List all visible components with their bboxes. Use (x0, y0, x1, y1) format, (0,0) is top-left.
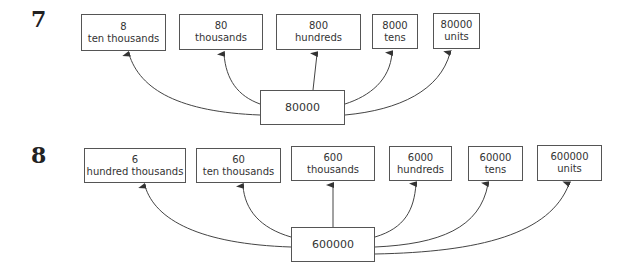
place-value-box: 800 hundreds (276, 14, 361, 50)
box-value: 60 (197, 154, 280, 166)
center-number-box: 600000 (291, 227, 375, 262)
place-value-box: 80 thousands (179, 14, 263, 50)
box-place: hundred thousands (85, 166, 185, 178)
box-place: tens (373, 32, 417, 44)
box-place: hundreds (277, 32, 360, 44)
place-value-box: 80000 units (433, 13, 480, 49)
box-value: 600 (292, 152, 374, 164)
place-value-box: 8 ten thousands (81, 14, 166, 51)
box-value: 60000 (469, 152, 522, 164)
place-value-box: 60000 tens (468, 146, 523, 181)
box-value: 80000 (434, 19, 479, 31)
box-value: 600000 (538, 151, 601, 163)
box-place: ten thousands (82, 33, 165, 45)
box-place: ten thousands (197, 166, 280, 178)
problem-number-8: 8 (31, 142, 46, 168)
box-place: units (434, 31, 479, 43)
place-value-box: 6000 hundreds (389, 146, 452, 181)
box-value: 8000 (373, 20, 417, 32)
problem-number-7: 7 (31, 6, 46, 32)
place-value-box: 6 hundred thousands (84, 148, 186, 183)
box-value: 6 (85, 154, 185, 166)
box-value: 80 (180, 20, 262, 32)
box-value: 6000 (390, 152, 451, 164)
center-value: 80000 (261, 102, 344, 114)
box-place: tens (469, 164, 522, 176)
place-value-box: 600000 units (537, 145, 602, 181)
box-place: thousands (180, 32, 262, 44)
box-place: units (538, 163, 601, 175)
center-value: 600000 (292, 239, 374, 251)
box-place: hundreds (390, 164, 451, 176)
center-number-box: 80000 (260, 90, 345, 125)
place-value-box: 600 thousands (291, 146, 375, 181)
place-value-box: 60 ten thousands (196, 148, 281, 183)
place-value-box: 8000 tens (372, 14, 418, 49)
box-place: thousands (292, 164, 374, 176)
box-value: 800 (277, 20, 360, 32)
box-value: 8 (82, 21, 165, 33)
